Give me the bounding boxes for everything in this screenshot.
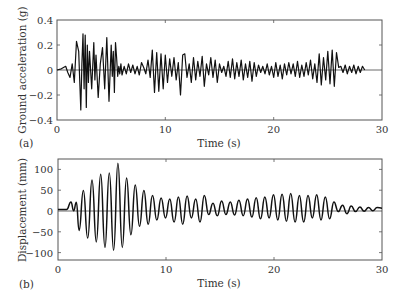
- x-axis-label-b: Time (s): [197, 277, 240, 289]
- x-tick-label: 30: [376, 264, 389, 275]
- y-tick-label: −0.4: [29, 115, 53, 126]
- figure: 0.4 0.2 0 −0.2 −0.4 0 10 20 30 Time (s) …: [0, 0, 402, 307]
- y-axis-label-a: Ground acceleration (g): [16, 6, 28, 133]
- y-tick-label: 0.2: [37, 40, 53, 51]
- x-tick-label: 0: [55, 264, 61, 275]
- panel-label-a: (a): [19, 137, 33, 149]
- y-tick-label: −100: [26, 248, 53, 259]
- y-tick-label: 100: [34, 164, 53, 175]
- y-tick-label: −0.2: [29, 90, 53, 101]
- y-tick-label: 0: [47, 65, 53, 76]
- y-axis-label-b: Displacement (mm): [16, 158, 28, 262]
- y-tick-label: 0.4: [37, 15, 53, 26]
- y-tick-label: 0: [47, 206, 53, 217]
- x-tick-label: 10: [160, 264, 173, 275]
- figure-svg: 0.4 0.2 0 −0.2 −0.4 0 10 20 30 Time (s) …: [0, 0, 402, 307]
- acceleration-series-line: [57, 34, 365, 110]
- x-axis-label-a: Time (s): [197, 137, 240, 149]
- y-tick-label: 50: [40, 185, 53, 196]
- y-tick-label: −50: [32, 227, 53, 238]
- displacement-series-line: [58, 163, 382, 250]
- x-tick-label: 30: [376, 124, 389, 135]
- panel-b: 100 50 0 −50 −100 0 10 20 30 Time (s) Di…: [16, 158, 388, 290]
- x-tick-label: 0: [54, 124, 60, 135]
- panel-a: 0.4 0.2 0 −0.2 −0.4 0 10 20 30 Time (s) …: [16, 6, 388, 149]
- x-tick-label: 10: [159, 124, 172, 135]
- x-tick-label: 20: [267, 124, 280, 135]
- panel-label-b: (b): [19, 278, 34, 290]
- x-tick-label: 20: [268, 264, 281, 275]
